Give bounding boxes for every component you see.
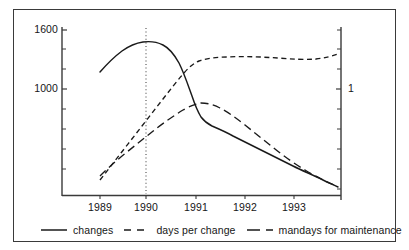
- year-axis: [62, 196, 341, 200]
- legend-entry-mandays-for-maintenance: mandays for maintenance: [246, 222, 402, 238]
- y-left-tick-label-1000: 1000: [18, 83, 58, 94]
- legend-label-days-per-change: days per change: [156, 224, 235, 236]
- series-days-per-change: [100, 54, 338, 180]
- legend-line-longdash-icon: [246, 225, 274, 235]
- legend-line-solid-icon: [40, 225, 68, 235]
- y-left-tick-label-1600: 1600: [18, 24, 58, 35]
- x-tick-label-1991: 1991: [176, 202, 216, 213]
- series-mandays-for-maintenance: [100, 103, 334, 185]
- legend-entry-changes: changes: [40, 222, 113, 238]
- right-value-axis: [336, 27, 341, 200]
- legend-entry-days-per-change: days per change: [123, 222, 235, 238]
- legend-label-changes: changes: [73, 224, 113, 236]
- x-tick-label-1990: 1990: [126, 202, 166, 213]
- x-tick-label-1992: 1992: [225, 202, 265, 213]
- chart-legend: changes days per change mandays for main…: [40, 222, 385, 238]
- x-tick-label-1989: 1989: [80, 202, 120, 213]
- figure-root: 1600 1000 1 1989 1990 1991 1992 1993 cha…: [0, 0, 409, 250]
- series-changes: [100, 42, 338, 187]
- left-value-axis: [62, 27, 67, 196]
- legend-line-dashed-icon: [123, 225, 151, 235]
- legend-label-mandays-for-maintenance: mandays for maintenance: [279, 224, 402, 236]
- x-tick-label-1993: 1993: [274, 202, 314, 213]
- y-right-tick-label-1: 1: [348, 83, 368, 94]
